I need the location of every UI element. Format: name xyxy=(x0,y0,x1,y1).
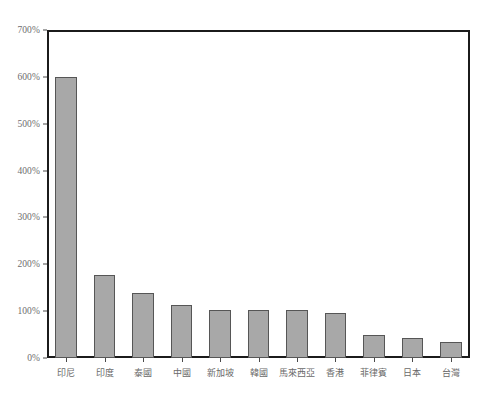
x-axis-tick-mark xyxy=(412,358,413,362)
x-axis-tick-mark xyxy=(335,358,336,362)
x-axis-tick-mark xyxy=(66,358,67,362)
x-axis-tick-label: 馬來西亞 xyxy=(279,366,315,379)
x-axis-tick-label: 台灣 xyxy=(442,366,460,379)
x-axis-tick-mark xyxy=(451,358,452,362)
x-axis-tick-label: 新加坡 xyxy=(207,366,234,379)
x-axis-tick-label: 印度 xyxy=(96,366,114,379)
x-axis-tick-mark xyxy=(182,358,183,362)
x-axis-tick-label: 中國 xyxy=(173,366,191,379)
x-axis-tick-label: 菲律賓 xyxy=(360,366,387,379)
x-axis-tick-label: 香港 xyxy=(326,366,344,379)
bar-chart-figure: 0%100%200%300%400%500%600%700% 印尼印度泰國中國新… xyxy=(0,0,499,394)
x-axis-tick-mark xyxy=(374,358,375,362)
x-axis-tick-mark xyxy=(105,358,106,362)
x-axis-tick-label: 泰國 xyxy=(134,366,152,379)
x-axis-tick-label: 印尼 xyxy=(57,366,75,379)
x-axis-tick-label: 日本 xyxy=(403,366,421,379)
x-axis-tick-mark xyxy=(259,358,260,362)
x-axis-tick-mark xyxy=(143,358,144,362)
x-axis-tick-label: 韓國 xyxy=(250,366,268,379)
x-axis-tick-mark xyxy=(220,358,221,362)
x-axis: 印尼印度泰國中國新加坡韓國馬來西亞香港菲律賓日本台灣 xyxy=(0,0,499,394)
x-axis-tick-mark xyxy=(297,358,298,362)
